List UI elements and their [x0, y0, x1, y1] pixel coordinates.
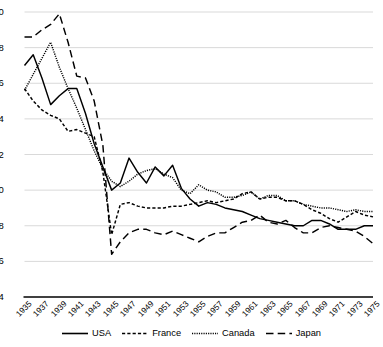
legend-label: Canada — [222, 329, 255, 338]
x-tick-label: 1935 — [15, 300, 34, 319]
x-tick-label: 1939 — [50, 300, 69, 319]
x-tick-label: 1937 — [32, 300, 51, 319]
x-tick-label: 1971 — [328, 300, 347, 319]
x-tick-label: 1967 — [294, 300, 313, 319]
legend-item-japan[interactable]: Japan — [266, 329, 321, 338]
solid-line-swatch — [62, 329, 88, 338]
dashed-line-swatch — [122, 329, 148, 338]
legend-label: USA — [92, 329, 111, 338]
x-tick-label: 1959 — [224, 300, 243, 319]
x-tick-label: 1943 — [85, 300, 104, 319]
line-chart: 468101214161820 193519371939194119431945… — [0, 0, 383, 347]
x-tick-label: 1947 — [119, 300, 138, 319]
x-tick-label: 1973 — [346, 300, 365, 319]
x-tick-label: 1941 — [67, 300, 86, 319]
x-tick-label: 1975 — [363, 300, 382, 319]
x-tick-label: 1961 — [241, 300, 260, 319]
legend-item-france[interactable]: France — [122, 329, 181, 338]
longdash-line-swatch — [266, 329, 292, 338]
x-tick-label: 1949 — [137, 300, 156, 319]
chart-legend: USAFranceCanadaJapan — [0, 326, 383, 342]
x-tick-label: 1963 — [259, 300, 278, 319]
legend-label: Japan — [296, 329, 321, 338]
legend-item-usa[interactable]: USA — [62, 329, 111, 338]
dotted-line-swatch — [192, 329, 218, 338]
x-tick-label: 1953 — [172, 300, 191, 319]
x-tick-label: 1965 — [276, 300, 295, 319]
x-axis-tick-labels: 1935193719391941194319451947194919511953… — [0, 0, 383, 347]
legend-label: France — [152, 329, 181, 338]
x-tick-label: 1969 — [311, 300, 330, 319]
x-tick-label: 1955 — [189, 300, 208, 319]
legend-item-canada[interactable]: Canada — [192, 329, 255, 338]
x-tick-label: 1951 — [154, 300, 173, 319]
x-tick-label: 1957 — [206, 300, 225, 319]
x-tick-label: 1945 — [102, 300, 121, 319]
